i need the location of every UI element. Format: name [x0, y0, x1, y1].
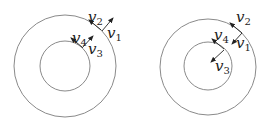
v2-label: v2	[88, 8, 103, 27]
v3-label: v3	[88, 40, 103, 59]
vectors: v1v2v3v4	[211, 8, 251, 76]
v4-label: v4	[214, 26, 229, 45]
figure-right: v1v2v3v4	[160, 8, 256, 115]
velocity-diagram: v1v2v3v4 v1v2v3v4	[0, 0, 270, 126]
v3-label: v3	[215, 57, 230, 76]
figure-left: v1v2v3v4	[14, 8, 122, 117]
v1-label: v1	[107, 24, 122, 43]
v4-label: v4	[72, 29, 87, 48]
v2-label: v2	[236, 8, 251, 27]
inner-circle	[40, 41, 90, 91]
v1-label: v1	[236, 34, 251, 53]
